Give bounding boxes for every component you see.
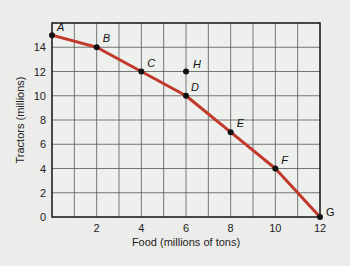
x-tick-label: 2 [94, 222, 100, 234]
grid-lines [52, 23, 320, 217]
y-tick-label: 2 [40, 187, 46, 199]
point-g-marker [317, 214, 323, 220]
x-tick-label: 8 [228, 222, 234, 234]
y-axis-ticks: 02468101214 [34, 41, 46, 223]
point-h-label: H [193, 58, 201, 70]
x-axis-label: Food (millions of tons) [132, 236, 240, 248]
point-b-label: B [103, 32, 110, 44]
ppf-chart: 24681012 02468101214 ABCDEFGH Food (mill… [0, 0, 350, 266]
y-tick-label: 4 [40, 163, 46, 175]
y-tick-label: 0 [40, 211, 46, 223]
y-tick-label: 10 [34, 90, 46, 102]
point-g-label: G [326, 206, 335, 218]
x-tick-label: 4 [138, 222, 144, 234]
point-e-label: E [237, 117, 245, 129]
y-tick-label: 12 [34, 66, 46, 78]
point-d-marker [183, 93, 189, 99]
x-tick-label: 12 [314, 222, 326, 234]
y-tick-label: 14 [34, 41, 46, 53]
point-d-label: D [191, 81, 199, 93]
y-axis-label: Tractors (millions) [14, 77, 26, 164]
point-a-label: A [56, 21, 64, 33]
point-f-marker [272, 166, 278, 172]
point-h-marker [183, 69, 189, 75]
y-tick-label: 8 [40, 114, 46, 126]
point-b-marker [94, 44, 100, 50]
point-e-marker [228, 129, 234, 135]
point-c-marker [138, 69, 144, 75]
x-tick-label: 10 [269, 222, 281, 234]
point-a-marker [49, 32, 55, 38]
point-c-label: C [147, 57, 155, 69]
x-axis-ticks: 24681012 [94, 222, 327, 234]
y-tick-label: 6 [40, 138, 46, 150]
x-tick-label: 6 [183, 222, 189, 234]
